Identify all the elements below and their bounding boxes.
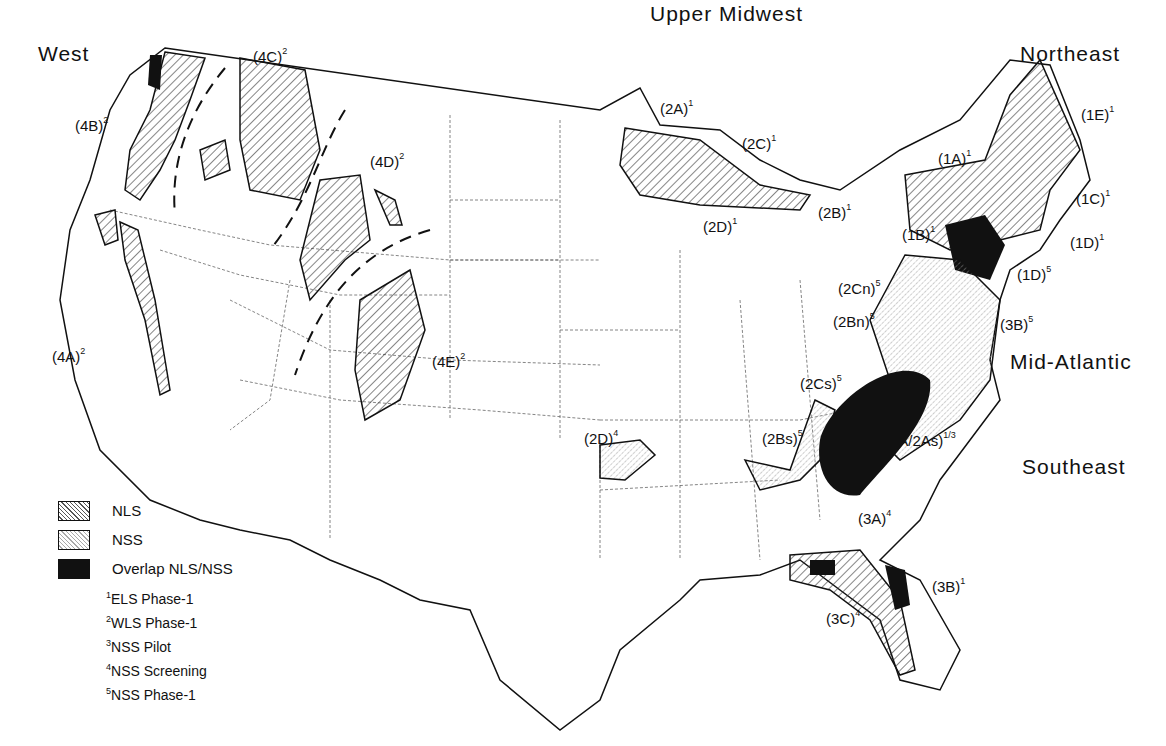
subregion-label: (2A)1 xyxy=(660,100,693,117)
subregion-label: (2Bn)5 xyxy=(833,313,875,330)
subregion-label: (3B)5 xyxy=(1000,316,1033,333)
nls-west xyxy=(95,52,425,420)
subregion-label: (1A)1 xyxy=(938,150,971,167)
legend-note-5: 5NSS Phase-1 xyxy=(58,679,278,703)
nls-northeast xyxy=(905,60,1080,250)
subregion-label: (3B)1 xyxy=(932,578,965,595)
region-title-mid-atlantic: Mid-Atlantic xyxy=(1010,350,1132,374)
legend-note-2: 2WLS Phase-1 xyxy=(58,607,278,631)
legend-note-4: 4NSS Screening xyxy=(58,655,278,679)
subregion-label: (3A/2As)1/3 xyxy=(885,432,956,449)
subregion-label: (2Cs)5 xyxy=(800,375,842,392)
subregion-label: (1D)1 xyxy=(1070,234,1104,251)
subregion-label: (3C)4 xyxy=(826,610,860,627)
legend-overlap: Overlap NLS/NSS xyxy=(58,554,278,583)
subregion-label: (4C)2 xyxy=(253,48,287,65)
subregion-label: (2C)1 xyxy=(742,135,776,152)
legend-label: Overlap NLS/NSS xyxy=(112,560,233,577)
nss-swatch xyxy=(58,530,90,550)
overlap-swatch xyxy=(58,559,90,579)
legend-nls: NLS xyxy=(58,496,278,525)
subregion-label: (2B)1 xyxy=(818,204,851,221)
region-title-southeast: Southeast xyxy=(1022,455,1126,479)
legend-note-1: 1ELS Phase-1 xyxy=(58,583,278,607)
subregion-label: (2D)1 xyxy=(703,218,737,235)
subregion-label: (2Cn)5 xyxy=(838,280,881,297)
subregion-label: (3A)4 xyxy=(858,510,891,527)
subregion-label: (2Bs)5 xyxy=(762,430,803,447)
legend-nss: NSS xyxy=(58,525,278,554)
legend-note-3: 3NSS Pilot xyxy=(58,631,278,655)
subregion-label: (2D)4 xyxy=(584,430,618,447)
subregion-label: (4B)2 xyxy=(75,117,108,134)
legend-label: NLS xyxy=(112,502,141,519)
subregion-label: (1B)1 xyxy=(902,226,935,243)
state-borders xyxy=(110,115,900,560)
legend-label: NSS xyxy=(112,531,143,548)
region-title-west: West xyxy=(38,42,89,66)
region-title-northeast: Northeast xyxy=(1020,42,1120,66)
subregion-label: (1D)5 xyxy=(1017,266,1051,283)
nls-upper-midwest xyxy=(620,128,810,210)
subregion-label: (1E)1 xyxy=(1081,106,1114,123)
subregion-label: (4D)2 xyxy=(370,153,404,170)
subregion-label: (1C)1 xyxy=(1076,190,1110,207)
nls-swatch xyxy=(58,501,90,521)
subregion-label: (4E)2 xyxy=(432,353,465,370)
overlap-florida-west xyxy=(810,560,835,575)
region-title-upper-midwest: Upper Midwest xyxy=(650,2,803,26)
subregion-label: (4A)2 xyxy=(52,348,85,365)
legend: NLS NSS Overlap NLS/NSS 1ELS Phase-1 2WL… xyxy=(58,496,278,703)
overlap-wa xyxy=(148,55,162,90)
